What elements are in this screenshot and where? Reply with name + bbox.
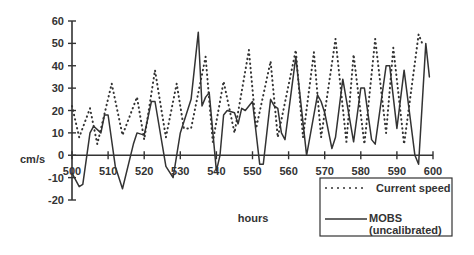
x-axis-title: hours	[238, 212, 269, 224]
y-tick-label: 20	[52, 105, 64, 117]
y-tick-label: 40	[52, 60, 64, 72]
y-tick-label: 30	[52, 82, 64, 94]
x-tick-label: 600	[424, 165, 442, 177]
x-tick-label: 570	[316, 165, 334, 177]
x-axis: 500510520530540550560570580590600	[63, 151, 442, 177]
x-tick-label: 520	[135, 165, 153, 177]
legend-label-current-speed: Current speed	[376, 182, 451, 194]
line-chart: -20-100102030405060 50051052053054055056…	[0, 0, 474, 255]
y-axis: -20-100102030405060	[48, 15, 76, 206]
x-tick-label: 580	[352, 165, 370, 177]
x-tick-label: 560	[279, 165, 297, 177]
y-axis-title: cm/s	[20, 153, 45, 165]
legend-label-mobs: MOBS	[369, 212, 402, 224]
y-tick-label: 0	[58, 149, 64, 161]
x-tick-label: 500	[63, 165, 81, 177]
legend: Current speed MOBS (uncalibrated)	[320, 178, 452, 236]
y-tick-label: -20	[48, 194, 64, 206]
x-tick-label: 590	[388, 165, 406, 177]
y-tick-label: -10	[48, 172, 64, 184]
legend-label-uncalibrated: (uncalibrated)	[369, 224, 442, 236]
y-tick-label: 50	[52, 37, 64, 49]
x-tick-label: 510	[99, 165, 117, 177]
y-tick-label: 60	[52, 15, 64, 27]
y-tick-label: 10	[52, 127, 64, 139]
x-tick-label: 550	[243, 165, 261, 177]
